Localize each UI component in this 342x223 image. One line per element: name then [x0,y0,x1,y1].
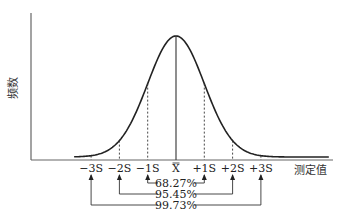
tick-label-m3: −3S [79,162,103,175]
y-axis-label: 频数 [6,77,20,99]
tick-label-p3: +3S [249,162,273,175]
tick-label-m2: −2S [108,162,132,175]
tick-label-p1: +1S [192,162,216,175]
normal-distribution-diagram: −3S−2S−1SX+1S+2S+3S 68.27%95.45%99.73% 频… [0,0,342,223]
tick-labels: −3S−2S−1SX+1S+2S+3S [79,162,273,175]
tick-label-m1: −1S [136,162,160,175]
interval-percentage: 99.73% [155,199,197,212]
x-axis-label: 测定值 [294,163,327,177]
tick-label-mean: X [172,162,180,175]
interval-brackets: 68.27%95.45%99.73% [89,174,264,212]
tick-label-p2: +2S [221,162,245,175]
distribution-curve [74,36,329,157]
